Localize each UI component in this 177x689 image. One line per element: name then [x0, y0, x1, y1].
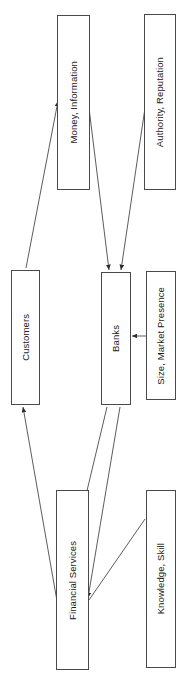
node-financial-services[interactable]: Financial Services: [56, 490, 89, 670]
node-label-money-information: Money, Information: [69, 61, 79, 143]
node-authority-reputation[interactable]: Authority, Reputation: [144, 14, 176, 190]
edge-authority-reputation-to-banks: [121, 108, 145, 270]
node-label-banks: Banks: [111, 325, 121, 352]
edge-financial-services-to-customers: [23, 407, 57, 601]
node-label-customers: Customers: [21, 314, 31, 361]
edge-knowledge-skill-to-financial-services: [89, 519, 145, 600]
node-label-authority-reputation: Authority, Reputation: [155, 57, 165, 147]
node-size-market-presence[interactable]: Size, Market Presence: [146, 271, 176, 400]
node-banks[interactable]: Banks: [101, 272, 131, 405]
node-knowledge-skill[interactable]: Knowledge, Skill: [146, 490, 176, 668]
edge-banks-to-financial-services: [88, 407, 120, 598]
edge-money-information-to-banks: [89, 108, 109, 270]
diagram-canvas: Money, Information Authority, Reputation…: [0, 0, 177, 689]
node-label-size-market-presence: Size, Market Presence: [156, 287, 166, 385]
node-label-financial-services: Financial Services: [68, 541, 78, 620]
edge-customers-to-money-information: [26, 101, 58, 268]
node-money-information[interactable]: Money, Information: [57, 15, 90, 190]
node-customers[interactable]: Customers: [11, 270, 40, 405]
node-label-knowledge-skill: Knowledge, Skill: [156, 543, 166, 614]
